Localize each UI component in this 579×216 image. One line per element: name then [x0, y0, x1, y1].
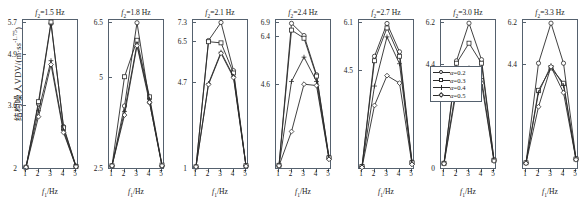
- x-axis-6: 12345: [440, 169, 496, 179]
- y-tick-label: 4.7: [178, 78, 187, 87]
- y-tick-mark: [276, 36, 279, 37]
- legend-item-2: α=0.3: [433, 77, 478, 85]
- data-point: [467, 21, 471, 25]
- plot-area-1: 5.74.93.62: [22, 19, 78, 169]
- x-tick-label: 3: [384, 170, 388, 178]
- panel-4: f2=2.4 Hz6.96.44.612345f1/Hz: [248, 6, 331, 198]
- y-axis-label-exponent: -1.75: [12, 30, 18, 43]
- x-tick-label: 1: [276, 170, 280, 178]
- x-tick-label: 2: [122, 170, 126, 178]
- y-tick-mark: [193, 22, 196, 23]
- legend-label: α=0.3: [450, 77, 465, 85]
- data-point: [302, 82, 307, 87]
- x-tick-label: 5: [159, 170, 163, 178]
- x-tick-label: 5: [491, 170, 495, 178]
- data-point: [315, 74, 319, 78]
- y-tick-mark: [109, 22, 112, 23]
- data-point: [536, 61, 540, 65]
- panel-title-5: f2=2.7 Hz: [358, 6, 414, 19]
- data-point: [385, 34, 390, 39]
- x-axis-1: 12345: [22, 169, 78, 179]
- y-tick-mark: [193, 82, 196, 83]
- legend-label: α=0.2: [450, 69, 465, 77]
- x-tick-label: 4: [61, 170, 65, 178]
- x-tick-label: 3: [48, 170, 52, 178]
- x-tick-label: 4: [231, 170, 235, 178]
- panel-2: f2=1.8 Hz6.552.512345f1/Hz: [78, 6, 164, 198]
- data-point: [219, 20, 223, 24]
- legend-item-4: α=0.5: [433, 92, 478, 100]
- y-tick-mark: [523, 64, 526, 65]
- x-tick-label: 4: [397, 170, 401, 178]
- data-point: [480, 61, 484, 65]
- series-layer-5: [359, 20, 415, 170]
- data-point: [302, 55, 307, 60]
- x-tick-label: 2: [36, 170, 40, 178]
- y-tick-mark: [359, 70, 362, 71]
- panel-title-2: f2=1.8 Hz: [108, 6, 164, 19]
- data-point: [536, 104, 541, 109]
- panel-title-6: f2=3.0 Hz: [440, 6, 496, 19]
- data-point: [231, 75, 236, 80]
- x-tick-label: 5: [73, 170, 77, 178]
- x-tick-label: 3: [466, 170, 470, 178]
- data-point: [372, 84, 377, 89]
- y-tick-mark: [359, 22, 362, 23]
- panel-1: f2=1.5 Hz5.74.93.6212345f1/Hz: [22, 6, 78, 198]
- y-tick-label: 6.1: [344, 18, 353, 27]
- data-point: [385, 21, 389, 25]
- data-point: [135, 21, 139, 25]
- y-tick-label: 7.3: [178, 18, 187, 27]
- x-tick-label: 3: [301, 170, 305, 178]
- panel-title-7: f2=3.3 Hz: [522, 6, 578, 19]
- x-tick-label: 3: [218, 170, 222, 178]
- series-line-plus: [196, 52, 246, 167]
- x-tick-label: 2: [454, 170, 458, 178]
- series-layer-1: [23, 20, 79, 170]
- data-point: [397, 81, 402, 86]
- data-point: [289, 21, 293, 25]
- plot-area-3: 7.36.54.71: [192, 19, 248, 169]
- y-tick-mark: [441, 22, 444, 23]
- x-tick-label: 1: [23, 170, 27, 178]
- data-point: [561, 61, 565, 65]
- data-point: [207, 40, 211, 44]
- legend-item-3: α=0.4: [433, 84, 478, 92]
- series-line-square: [444, 43, 494, 163]
- y-tick-label: 2.5: [94, 164, 103, 173]
- x-tick-label: 4: [147, 170, 151, 178]
- x-tick-label: 1: [359, 170, 363, 178]
- series-layer-2: [109, 20, 165, 170]
- data-point: [372, 103, 377, 108]
- x-tick-label: 1: [109, 170, 113, 178]
- data-point: [49, 20, 53, 24]
- x-tick-label: 4: [314, 170, 318, 178]
- y-tick-label: 6.9: [261, 18, 270, 27]
- series-line-plus: [526, 66, 576, 163]
- panel-title-4: f2=2.4 Hz: [275, 6, 331, 19]
- panel-3: f2=2.1 Hz7.36.54.7112345f1/Hz: [164, 6, 248, 198]
- x-axis-label-2: f1/Hz: [108, 187, 164, 198]
- x-tick-label: 2: [289, 170, 293, 178]
- plot-area-2: 6.552.5: [108, 19, 164, 169]
- x-tick-label: 4: [561, 170, 565, 178]
- y-tick-label: 6.4: [261, 31, 270, 40]
- panel-5: f2=2.7 Hz6.14.512345f1/Hz: [331, 6, 414, 198]
- y-tick-label: 6.2: [426, 18, 435, 27]
- y-tick-label: 5.7: [8, 18, 17, 27]
- data-point: [206, 82, 211, 87]
- data-point: [373, 59, 377, 63]
- x-tick-label: 5: [243, 170, 247, 178]
- y-tick-mark: [109, 77, 112, 78]
- series-layer-7: [523, 20, 579, 170]
- y-tick-label: 6.5: [178, 36, 187, 45]
- x-tick-label: 5: [409, 170, 413, 178]
- x-axis-7: 12345: [522, 169, 578, 179]
- x-tick-label: 2: [206, 170, 210, 178]
- series-line-plus: [279, 57, 329, 166]
- panel-7: f2=3.3 Hz6.24.412345f1/Hz: [496, 6, 578, 198]
- x-axis-3: 12345: [192, 169, 248, 179]
- y-tick-label: 4.6: [261, 80, 270, 89]
- x-tick-label: 3: [548, 170, 552, 178]
